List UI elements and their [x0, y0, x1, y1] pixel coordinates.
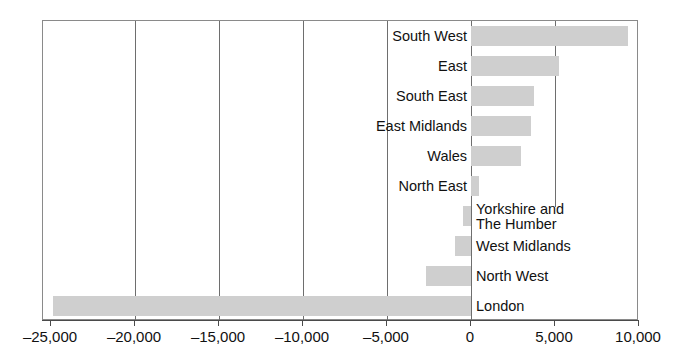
- table-row: London: [43, 291, 637, 321]
- table-row: North West: [43, 261, 637, 291]
- bar-yorkshire-and-the-humber: [463, 206, 471, 226]
- table-row: South West: [43, 21, 637, 51]
- category-label-london: London: [476, 291, 656, 321]
- category-label-line1: Yorkshire and: [476, 202, 656, 217]
- category-label-yorkshire-and-the-humber: Yorkshire and The Humber: [476, 201, 656, 231]
- x-tick-label--20000: –20,000: [107, 328, 161, 345]
- bar-east: [471, 56, 559, 76]
- x-axis-line: [42, 320, 638, 321]
- bar-north-east: [471, 176, 479, 196]
- bar-north-west: [426, 266, 471, 286]
- category-label-east-midlands: East Midlands: [301, 111, 467, 141]
- x-tick--10000: [302, 320, 303, 326]
- bar-west-midlands: [455, 236, 471, 256]
- bar-london: [53, 296, 471, 316]
- category-label-south-east: South East: [321, 81, 467, 111]
- x-tick-label-10000: 10,000: [615, 328, 661, 345]
- x-tick-label--25000: –25,000: [23, 328, 77, 345]
- bar-south-east: [471, 86, 534, 106]
- table-row: Wales: [43, 141, 637, 171]
- x-tick-label--10000: –10,000: [275, 328, 329, 345]
- category-label-wales: Wales: [321, 141, 467, 171]
- category-label-west-midlands: West Midlands: [476, 231, 656, 261]
- x-tick-label--5000: –5,000: [363, 328, 409, 345]
- x-tick-label--15000: –15,000: [191, 328, 245, 345]
- x-tick-label-0: 0: [466, 328, 474, 345]
- table-row: West Midlands: [43, 231, 637, 261]
- bar-chart: South West East South East East Midlands…: [0, 0, 683, 364]
- bar-south-west: [471, 26, 628, 46]
- table-row: East: [43, 51, 637, 81]
- table-row: North East: [43, 171, 637, 201]
- table-row: East Midlands: [43, 111, 637, 141]
- x-tick--15000: [218, 320, 219, 326]
- x-tick-5000: [554, 320, 555, 326]
- x-tick--20000: [134, 320, 135, 326]
- x-tick--25000: [50, 320, 51, 326]
- category-label-south-west: South West: [321, 21, 467, 51]
- x-tick-10000: [638, 320, 639, 326]
- table-row: Yorkshire and The Humber: [43, 201, 637, 231]
- x-tick-0: [470, 320, 471, 326]
- x-tick--5000: [386, 320, 387, 326]
- bar-wales: [471, 146, 521, 166]
- bar-east-midlands: [471, 116, 531, 136]
- category-label-east: East: [321, 51, 467, 81]
- table-row: South East: [43, 81, 637, 111]
- plot-area: South West East South East East Midlands…: [42, 20, 638, 320]
- category-label-north-east: North East: [321, 171, 467, 201]
- category-label-line2: The Humber: [476, 217, 656, 232]
- x-tick-label-5000: 5,000: [535, 328, 573, 345]
- category-label-north-west: North West: [476, 261, 656, 291]
